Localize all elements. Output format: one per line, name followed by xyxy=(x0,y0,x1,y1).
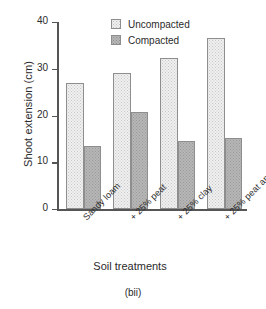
y-axis-title: Shoot extension (cm) xyxy=(22,39,34,189)
y-axis-tick-label: 40 xyxy=(37,15,48,26)
bar-chart-figure: Shoot extension (cm) Uncompacted Compact… xyxy=(0,0,266,309)
y-axis-tick-label: 30 xyxy=(37,62,48,73)
y-axis-tick-label: 10 xyxy=(37,155,48,166)
bar-uncompacted xyxy=(207,38,225,209)
y-axis-tick-label: 20 xyxy=(37,109,48,120)
bars-layer xyxy=(57,22,253,209)
bar-uncompacted xyxy=(66,83,84,209)
bar-compacted xyxy=(131,112,149,209)
plot-area: 010203040 xyxy=(57,22,253,209)
figure-caption: (bii) xyxy=(0,287,266,298)
y-axis-tick-label: 0 xyxy=(42,202,48,213)
x-axis-title: Soil treatments xyxy=(60,260,200,272)
y-axis-tick: 0 xyxy=(52,209,57,210)
